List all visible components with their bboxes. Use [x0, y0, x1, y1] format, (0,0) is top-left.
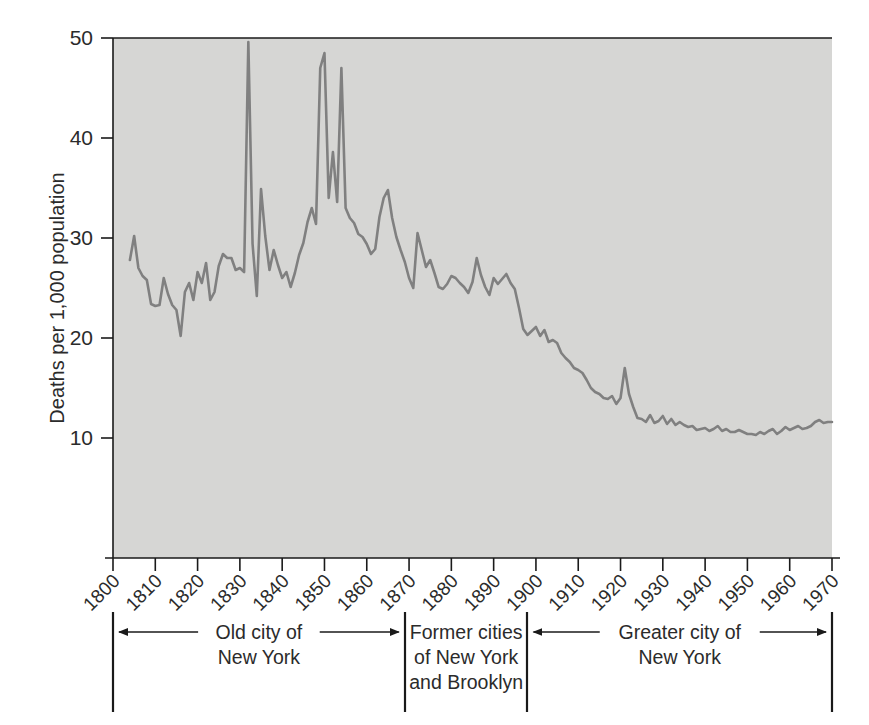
death-rate-line-chart: 1020304050 18001810182018301840185018601…: [0, 0, 869, 725]
era-band-greater-city: Greater city ofNew York: [533, 621, 826, 668]
x-tick-label-1950: 1950: [713, 570, 758, 615]
x-axis-tick-labels: 1800181018201830184018501860187018801890…: [79, 570, 843, 615]
x-axis-ticks: [113, 558, 832, 571]
x-tick-label-1940: 1940: [671, 570, 716, 615]
x-tick-label-1890: 1890: [460, 570, 505, 615]
era-band-former-cities: Former citiesof New Yorkand Brooklyn: [409, 621, 523, 693]
era-band-label-greater-city-line-0: Greater city of: [619, 621, 742, 643]
era-band-annotations: Old city ofNew YorkFormer citiesof New Y…: [113, 612, 832, 712]
x-tick-label-1970: 1970: [798, 570, 843, 615]
x-tick-label-1900: 1900: [502, 570, 547, 615]
y-axis-title: Deaths per 1,000 population: [46, 172, 68, 423]
x-tick-label-1820: 1820: [164, 570, 209, 615]
y-tick-label-20: 20: [70, 326, 93, 349]
plot-background: [113, 38, 832, 558]
y-tick-label-30: 30: [70, 226, 93, 249]
y-tick-label-40: 40: [70, 126, 93, 149]
x-tick-label-1880: 1880: [417, 570, 462, 615]
x-tick-label-1860: 1860: [333, 570, 378, 615]
era-band-label-greater-city-line-1: New York: [639, 646, 722, 668]
x-tick-label-1850: 1850: [291, 570, 336, 615]
era-band-label-old-city-line-1: New York: [218, 646, 301, 668]
x-tick-label-1810: 1810: [121, 570, 166, 615]
era-band-label-former-cities-line-1: of New York: [414, 646, 518, 668]
x-tick-label-1830: 1830: [206, 570, 251, 615]
y-axis-ticks: [101, 38, 113, 438]
era-band-old-city: Old city ofNew York: [119, 621, 399, 668]
x-tick-label-1960: 1960: [756, 570, 801, 615]
chart-figure: 1020304050 18001810182018301840185018601…: [0, 0, 869, 725]
x-tick-label-1870: 1870: [375, 570, 420, 615]
era-band-label-former-cities-line-2: and Brooklyn: [409, 671, 523, 693]
x-tick-label-1910: 1910: [544, 570, 589, 615]
era-band-label-old-city-line-0: Old city of: [216, 621, 303, 643]
y-axis-tick-labels: 1020304050: [70, 26, 93, 449]
y-tick-label-50: 50: [70, 26, 93, 49]
x-tick-label-1840: 1840: [248, 570, 293, 615]
era-band-label-former-cities-line-0: Former cities: [410, 621, 523, 643]
x-tick-label-1930: 1930: [629, 570, 674, 615]
x-tick-label-1800: 1800: [79, 570, 124, 615]
y-tick-label-10: 10: [70, 426, 93, 449]
x-tick-label-1920: 1920: [587, 570, 632, 615]
